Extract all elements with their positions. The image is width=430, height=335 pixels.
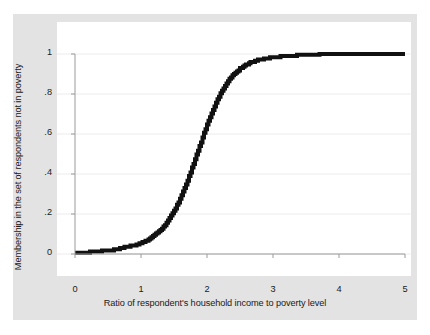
x-tick-label: 3 <box>258 284 288 294</box>
y-tick-label: .6 <box>30 127 52 137</box>
data-series-group <box>75 54 405 253</box>
x-tick-label: 4 <box>324 284 354 294</box>
gridlines <box>57 54 411 254</box>
y-tick-label: 0 <box>30 247 52 257</box>
y-tick-label: .8 <box>30 87 52 97</box>
plot-panel <box>57 22 411 276</box>
chart-figure: 012345 0.2.4.6.81 Ratio of respondent's … <box>13 14 417 320</box>
x-tick-label: 1 <box>126 284 156 294</box>
y-tick-label: 1 <box>30 47 52 57</box>
x-tick-label: 0 <box>60 284 90 294</box>
x-tick-label: 5 <box>390 284 420 294</box>
x-axis-title: Ratio of respondent's household income t… <box>13 298 417 308</box>
y-axis-title: Membership in the set of respondents not… <box>13 14 26 320</box>
plot-svg <box>57 22 411 276</box>
y-tick-label: .2 <box>30 207 52 217</box>
series-line <box>75 54 405 253</box>
x-tick-label: 2 <box>192 284 222 294</box>
y-tick-label: .4 <box>30 167 52 177</box>
